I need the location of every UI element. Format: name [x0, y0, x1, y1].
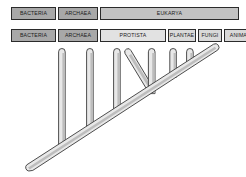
tree-trunk [26, 44, 219, 171]
branch-2 [87, 49, 94, 130]
branch-3 [114, 49, 121, 112]
phylogenetic-tree [0, 0, 246, 177]
branch-1 [59, 49, 66, 148]
tree-of-life-figure: BACTERIAARCHAEAEUKARYA BACTERIAARCHAEAPR… [0, 0, 246, 177]
